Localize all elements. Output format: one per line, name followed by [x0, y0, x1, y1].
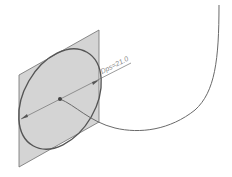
dimension-label[interactable]: Dps=21.0 — [99, 55, 130, 76]
center-point[interactable] — [58, 97, 62, 101]
cad-diagram: Dps=21.0 — [0, 0, 232, 177]
